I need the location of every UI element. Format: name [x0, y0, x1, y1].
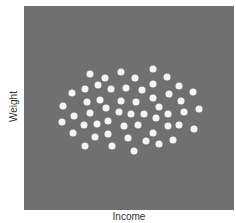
data-point: [178, 98, 185, 105]
y-axis-label: Weight: [8, 72, 19, 142]
data-point: [94, 121, 101, 128]
data-point: [128, 111, 135, 118]
data-point: [150, 81, 157, 88]
data-point: [87, 110, 94, 117]
data-point: [132, 75, 139, 82]
data-point: [116, 109, 123, 116]
data-point: [133, 99, 140, 106]
data-point: [176, 122, 183, 129]
data-point: [97, 97, 104, 104]
data-point: [150, 95, 157, 102]
data-point: [87, 71, 94, 78]
data-point: [118, 69, 125, 76]
data-point: [131, 148, 138, 155]
data-point: [71, 113, 78, 120]
data-point: [141, 111, 148, 118]
data-point: [108, 86, 115, 93]
data-point: [123, 85, 130, 92]
data-point: [125, 135, 132, 142]
data-point: [150, 66, 157, 73]
data-point: [102, 75, 109, 82]
data-point: [156, 141, 163, 148]
data-point: [84, 99, 91, 106]
data-point: [139, 87, 146, 94]
data-point: [196, 106, 203, 113]
data-point: [181, 109, 188, 116]
data-point: [176, 83, 183, 90]
data-point: [164, 74, 171, 81]
data-point: [170, 137, 177, 144]
data-point: [103, 105, 110, 112]
data-point: [109, 143, 116, 150]
data-point: [156, 104, 163, 111]
data-point: [150, 130, 157, 137]
data-point: [143, 138, 150, 145]
data-point: [165, 123, 172, 130]
data-point: [165, 111, 172, 118]
data-point: [95, 82, 102, 89]
data-point: [191, 126, 198, 133]
data-point: [118, 98, 125, 105]
data-point: [153, 115, 160, 122]
data-point: [105, 118, 112, 125]
data-point: [82, 86, 89, 93]
data-point: [82, 143, 89, 150]
data-point: [81, 122, 88, 129]
data-point: [190, 89, 197, 96]
data-point: [105, 131, 112, 138]
data-point: [60, 103, 67, 110]
data-point: [59, 119, 66, 126]
data-point: [69, 90, 76, 97]
data-point: [121, 123, 128, 130]
data-point: [70, 130, 77, 137]
data-point: [92, 134, 99, 141]
data-point: [135, 122, 142, 129]
plot-area: [24, 6, 234, 210]
x-axis-label: Income: [24, 211, 234, 222]
data-point: [166, 91, 173, 98]
